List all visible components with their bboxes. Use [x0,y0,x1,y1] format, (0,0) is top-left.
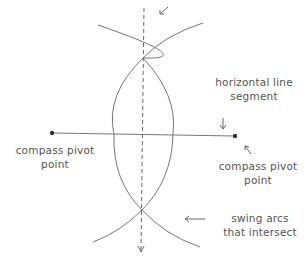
label-line: point [15,157,95,171]
swing-arc-right-center [98,25,200,247]
label-line: that intersect [218,225,302,239]
pivot-arrow-icon [245,146,251,154]
label-left-pivot: compass pivot point [15,143,95,171]
perpendicular-bisector [141,8,144,250]
label-line: swing arcs [218,211,302,225]
label-right-pivot: compass pivot point [218,159,298,187]
pointer-arrow-icon [160,7,168,14]
label-segment: horizontal line segment [212,75,296,103]
label-line: compass pivot [15,143,95,157]
label-line: segment [212,89,296,103]
left-pivot-dot [50,131,54,135]
swing-arc-left-center [93,23,203,242]
label-line: horizontal line [212,75,296,89]
label-line: compass pivot [218,159,298,173]
label-line: point [218,173,298,187]
horizontal-line-segment [52,133,235,136]
segment-arrow-icon [220,118,226,129]
label-arcs: swing arcs that intersect [218,211,302,239]
right-pivot-dot [233,134,237,138]
arcs-arrow-icon [185,216,205,222]
